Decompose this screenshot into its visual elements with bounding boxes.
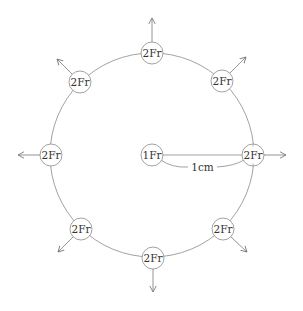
- outer-node-label: 2Fr: [71, 76, 91, 88]
- outer-node-label: 2Fr: [143, 47, 163, 59]
- radius-label: 1cm: [191, 161, 214, 173]
- outer-node-east: 2Fr: [242, 144, 264, 166]
- radius-measure-arc-right: [217, 160, 244, 167]
- radius-measure-arc: [161, 160, 188, 167]
- outer-node-northeast: 2Fr: [211, 70, 233, 92]
- center-node-label: 1Fr: [143, 149, 163, 161]
- outer-node-label: 2Fr: [144, 252, 164, 264]
- outer-node-northwest: 2Fr: [69, 71, 91, 93]
- outer-node-label: 2Fr: [214, 223, 234, 235]
- outer-node-southeast: 2Fr: [212, 218, 234, 240]
- outer-node-label: 2Fr: [213, 75, 233, 87]
- arrow-up-right-icon: [230, 57, 246, 73]
- outer-node-label: 2Fr: [244, 149, 264, 161]
- center-node: 1Fr: [141, 144, 163, 166]
- arrow-up-left-icon: [57, 59, 72, 74]
- outer-node-north: 2Fr: [141, 42, 163, 64]
- outer-node-south: 2Fr: [142, 247, 164, 269]
- arrow-down-left-icon: [58, 237, 73, 252]
- outer-node-label: 2Fr: [72, 223, 92, 235]
- outer-node-southwest: 2Fr: [70, 218, 92, 240]
- outer-node-label: 2Fr: [42, 149, 62, 161]
- outer-node-west: 2Fr: [40, 144, 62, 166]
- radial-fr-diagram: 1cm 1Fr 2Fr 2Fr 2Fr 2Fr 2Fr 2F: [0, 0, 303, 311]
- arrow-down-right-icon: [231, 237, 247, 252]
